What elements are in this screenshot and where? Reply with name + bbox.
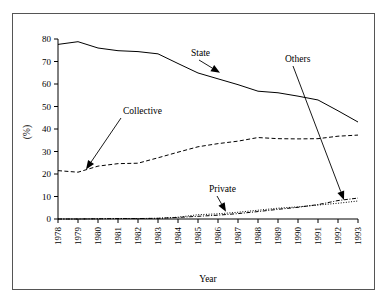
series-line-private <box>58 201 358 219</box>
x-tick-label: 1984 <box>173 227 183 246</box>
x-tick-label: 1982 <box>133 227 143 245</box>
y-tick-label: 0 <box>47 214 52 224</box>
top-caption <box>0 0 387 11</box>
y-tick-label: 60 <box>42 79 52 89</box>
x-tick-label: 1991 <box>313 227 323 245</box>
annotation-label-others: Others <box>285 54 311 64</box>
x-tick-label: 1979 <box>73 227 83 246</box>
annotation-leader-others <box>293 66 341 192</box>
x-tick-label: 1993 <box>353 227 363 246</box>
x-tick-label: 1986 <box>213 227 223 246</box>
series-line-collective <box>58 135 358 172</box>
y-tick-label: 10 <box>42 192 52 202</box>
x-tick-label: 1978 <box>53 227 63 246</box>
y-tick-label: 80 <box>42 34 52 44</box>
annotation-label-private: Private <box>209 184 236 194</box>
annotation-leader-state <box>199 60 212 68</box>
annotation-arrowhead-state <box>210 65 220 73</box>
x-axis-title: Year <box>199 274 217 284</box>
x-tick-label: 1992 <box>333 227 343 245</box>
x-tick-label: 1980 <box>93 227 103 246</box>
y-tick-label: 50 <box>42 102 52 112</box>
y-tick-label: 30 <box>42 147 52 157</box>
annotation-label-state: State <box>191 48 210 58</box>
annotation-arrowhead-private <box>218 202 226 212</box>
y-tick-label: 20 <box>42 169 52 179</box>
annotation-leader-collective <box>91 118 121 162</box>
y-axis-title: (%) <box>22 125 33 139</box>
annotation-group: StateCollectivePrivateOthers <box>86 48 344 212</box>
y-tick-label: 40 <box>42 124 52 134</box>
x-tick-label: 1990 <box>293 227 303 246</box>
figure-frame: 01020304050607080 1978197919801981198219… <box>12 13 375 290</box>
annotation-leader-private <box>217 196 222 204</box>
annotation-label-collective: Collective <box>123 106 162 116</box>
series-line-others <box>58 198 358 219</box>
annotation-arrowhead-others <box>337 190 344 200</box>
x-tick-label: 1987 <box>233 227 243 246</box>
x-axis-ticks: 1978197919801981198219831984198519861987… <box>53 219 363 245</box>
x-tick-label: 1985 <box>193 227 203 246</box>
line-chart: 01020304050607080 1978197919801981198219… <box>13 14 374 289</box>
x-tick-label: 1983 <box>153 227 163 246</box>
y-axis-ticks: 01020304050607080 <box>42 34 58 224</box>
y-tick-label: 70 <box>42 57 52 67</box>
data-series-group <box>58 42 358 219</box>
x-tick-label: 1981 <box>113 227 123 245</box>
x-tick-label: 1989 <box>273 227 283 246</box>
axis-group <box>58 39 358 219</box>
x-tick-label: 1988 <box>253 227 263 246</box>
